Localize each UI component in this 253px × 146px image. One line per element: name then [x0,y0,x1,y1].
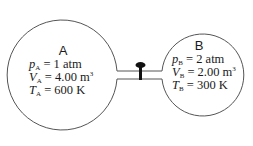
tank-b-label: B [195,38,204,53]
tank-a-temperature: TA = 600 K [29,83,85,98]
tank-a-label: A [59,43,68,58]
tank-b-temperature: TB = 300 K [172,78,228,93]
diagram-canvas: A pA = 1 atm VA = 4.00 m3 TA = 600 K B p… [0,0,253,146]
